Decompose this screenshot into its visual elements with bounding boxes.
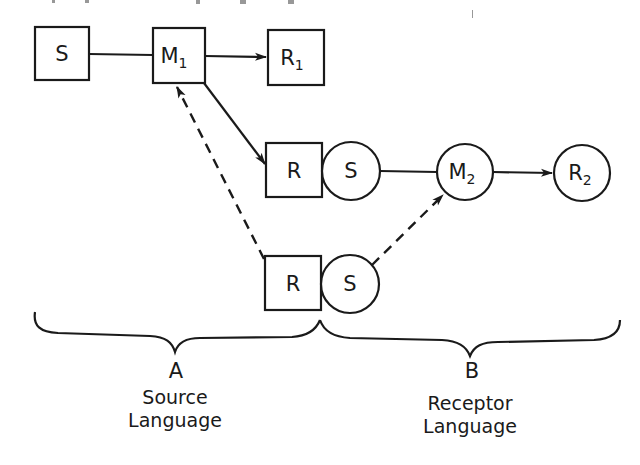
node-r1-subscript: 1 <box>295 57 304 73</box>
node-m1-label: M <box>160 44 178 68</box>
group-b-line1: Receptor <box>427 392 512 414</box>
node-r-mid: R <box>266 143 322 197</box>
node-m1: M1 <box>153 28 205 83</box>
node-m2: M2 <box>437 144 493 200</box>
edge-m1-r1 <box>205 56 266 57</box>
node-s-mid-label: S <box>344 159 357 183</box>
node-s1: S <box>35 27 89 80</box>
node-m2-subscript: 2 <box>467 171 476 187</box>
node-r-mid-label: R <box>287 159 302 183</box>
edge-rlow-m1-dashed <box>177 87 264 259</box>
communication-diagram: S M1 R1 R S R S M2 <box>0 0 640 465</box>
node-m1-subscript: 1 <box>179 55 188 71</box>
group-a-line1: Source <box>142 386 207 408</box>
node-r1: R1 <box>268 30 324 85</box>
node-r-low: R <box>265 256 321 310</box>
edge-m2-r2 <box>493 172 552 173</box>
group-b-line2: Language <box>423 415 517 437</box>
node-r-low-label: R <box>286 272 301 296</box>
node-s-low: S <box>321 255 379 313</box>
group-b-letter: B <box>465 359 479 383</box>
edge-m1-rmid <box>204 83 265 164</box>
node-s-mid: S <box>322 142 380 200</box>
node-m2-label: M <box>448 160 466 184</box>
node-r2-subscript: 2 <box>583 172 592 188</box>
cropped-text-fragments <box>52 0 473 18</box>
node-r2-label: R <box>568 161 583 185</box>
brace-receptor-language <box>320 320 620 356</box>
node-s-low-label: S <box>343 272 356 296</box>
brace-source-language <box>35 312 320 352</box>
edge-s1-m1 <box>89 54 153 55</box>
group-a-caption: A Source Language <box>128 359 222 431</box>
edge-smid-m2 <box>380 171 437 172</box>
group-b-caption: B Receptor Language <box>423 359 517 437</box>
node-r1-label: R <box>280 46 295 70</box>
edge-slow-m2-dashed <box>372 195 443 265</box>
group-a-line2: Language <box>128 409 222 431</box>
node-r2: R2 <box>554 145 610 201</box>
node-s1-label: S <box>55 42 68 66</box>
group-a-letter: A <box>169 359 184 383</box>
